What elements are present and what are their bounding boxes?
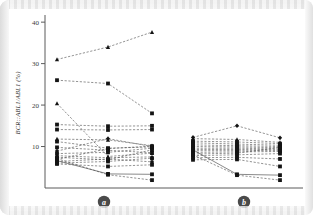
y-tick-label: 10 (32, 143, 40, 151)
series-line (57, 32, 152, 59)
series-line (57, 150, 152, 160)
series-line (193, 126, 280, 138)
data-point-marker (55, 145, 59, 149)
data-point-marker (191, 148, 195, 152)
series-line (57, 125, 152, 127)
data-point-marker (278, 157, 282, 161)
spaghetti-chart: 10203040 BCR::ABL1/ABL1 (%) ab (0, 0, 313, 215)
figure-page: 10203040 BCR::ABL1/ABL1 (%) ab (0, 0, 313, 215)
data-point-marker (55, 157, 59, 161)
data-point-marker (150, 111, 154, 115)
data-point-marker (55, 128, 59, 132)
data-point-marker (278, 178, 282, 182)
data-point-marker (106, 124, 110, 128)
data-point-marker (235, 124, 239, 129)
y-axis-label-text: BCR::ABL1/ABL1 (%) (14, 72, 22, 135)
panel-a (55, 30, 154, 182)
data-point-marker (150, 124, 154, 128)
data-point-marker (150, 156, 154, 160)
series-line (57, 139, 152, 151)
data-point-marker (150, 144, 154, 148)
data-point-marker (106, 150, 110, 154)
group-badge-label-b: b (242, 198, 246, 207)
data-point-marker (55, 123, 59, 127)
data-point-marker (191, 153, 195, 157)
series-line (57, 147, 152, 152)
data-point-marker (106, 128, 110, 132)
data-point-marker (191, 158, 195, 162)
data-point-marker (235, 157, 239, 161)
data-point-marker (278, 152, 282, 156)
series-line (57, 80, 152, 113)
group-labels: ab (98, 196, 250, 208)
data-point-marker (106, 165, 110, 169)
panel-b (191, 124, 282, 183)
axis-group: 10203040 (32, 15, 303, 188)
data-point-marker (106, 136, 110, 141)
y-tick-label: 20 (32, 102, 40, 110)
data-point-marker (150, 163, 154, 167)
chart-canvas: 10203040 BCR::ABL1/ABL1 (%) ab (0, 0, 313, 215)
data-point-marker (55, 101, 59, 105)
data-point-marker (106, 82, 110, 86)
y-tick-label: 40 (32, 19, 40, 27)
data-point-marker (235, 173, 239, 177)
y-tick-label: 30 (32, 60, 40, 68)
series-group (55, 30, 282, 182)
data-point-marker (150, 128, 154, 132)
series-line (57, 156, 152, 158)
data-point-marker (150, 30, 154, 34)
data-point-marker (106, 147, 110, 151)
group-badge-label-a: a (102, 198, 106, 207)
data-point-marker (106, 160, 110, 164)
data-point-marker (150, 148, 154, 152)
data-point-marker (106, 45, 110, 49)
data-point-marker (150, 172, 154, 176)
data-point-marker (55, 140, 59, 144)
series-line (57, 139, 152, 146)
data-point-marker (150, 178, 154, 182)
y-axis-label: BCR::ABL1/ABL1 (%) (14, 72, 22, 135)
data-point-marker (278, 145, 282, 149)
data-point-marker (278, 165, 282, 169)
data-point-marker (278, 173, 282, 177)
data-point-marker (55, 162, 59, 166)
data-point-marker (278, 136, 282, 141)
data-point-marker (106, 173, 110, 177)
series-line (57, 161, 152, 175)
data-point-marker (55, 78, 59, 82)
